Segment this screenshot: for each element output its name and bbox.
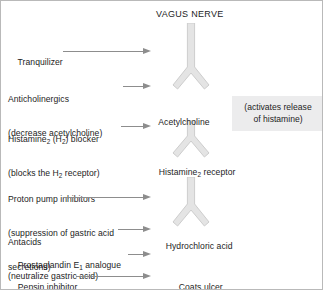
label-hydrochloric-acid: Hydrochloric acid: [156, 230, 233, 264]
diagram-title: VAGUS NERVE: [156, 9, 224, 19]
antacids-text: Antacids: [8, 237, 41, 247]
prostaglandin-sub: 1: [79, 264, 83, 271]
ppi-text: Proton pump inhibitors: [8, 194, 95, 204]
h2-blocker-text-c: ) blocker: [65, 134, 98, 144]
tranquilizer-text: Tranquilizer: [18, 57, 63, 67]
activates-histamine-callout: (activates release of histamine): [232, 96, 323, 131]
h2-blocker-sub-b: 2: [62, 138, 66, 145]
arrow-antacids: [118, 226, 151, 233]
label-coats-ulcer: Coats ulcer: [169, 271, 223, 290]
arrow-prostaglandin-e1-analogue: [128, 251, 151, 258]
prostaglandin-text-a: Prostaglandin E: [18, 260, 79, 270]
label-acetylcholine: Acetylcholine: [149, 106, 210, 140]
label-histamine2-receptor: Histamine2 receptor: [149, 156, 235, 190]
drug-label-pepsin-inhibitor: Pepsin inhibitor: [8, 271, 77, 290]
h2-blocker-text-b: (H: [50, 134, 62, 144]
anticholinergics-line-1: Anticholinergics: [8, 94, 102, 105]
acetylcholine-text: Acetylcholine: [158, 117, 209, 127]
vagus-nerve-branch-icon: [171, 23, 211, 95]
h2-blocker-sub-a: 2: [47, 138, 51, 145]
pathway-diagram: VAGUS NERVE (activates release of histam…: [0, 0, 323, 290]
antacids-line-1: Antacids: [8, 237, 98, 248]
arrow-anticholinergics: [123, 83, 151, 90]
ppi-line-1: Proton pump inhibitors: [8, 194, 114, 205]
histamine2-receptor-text-after: receptor: [201, 167, 235, 177]
prostaglandin-text-b: analogue: [83, 260, 121, 270]
histamine2-receptor-subscript: 2: [197, 171, 201, 178]
callout-line-1: (activates release: [244, 102, 311, 113]
anticholinergics-text: Anticholinergics: [8, 94, 69, 104]
arrow-histamine2-blocker: [121, 123, 151, 130]
arrow-tranquilizer: [63, 48, 151, 55]
hydrochloric-acid-text: Hydrochloric acid: [166, 241, 233, 251]
callout-line-2: of histamine): [244, 114, 311, 125]
histamine2-receptor-text-before: Histamine: [159, 167, 198, 177]
h2-blocker-text-a: Histamine: [8, 134, 47, 144]
pepsin-inhibitor-text: Pepsin inhibitor: [18, 282, 78, 290]
histamine2-blocker-line-1: Histamine2 (H2) blocker: [8, 134, 100, 145]
coats-ulcer-text: Coats ulcer: [179, 282, 223, 290]
